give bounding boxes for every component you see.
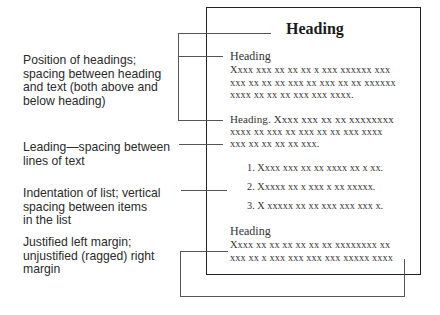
label-heading-position: Position of headings; spacing between he… [23,54,161,108]
leader-list [181,190,227,191]
leader-left-margin [180,251,228,252]
text-line: xxx xx xx xx xx xxx. [230,138,394,151]
bracket-vertical-margins [180,251,181,297]
label-leading: Leading—spacing between lines of text [23,141,170,168]
label-line: spacing between items [23,201,161,215]
leader-heading1 [178,56,223,57]
bracket-bottom [180,296,405,297]
leader-heading2 [178,120,223,121]
leader-right-margin [404,259,405,297]
text-line: xxx xx x xxx xxx xxx xxx xxxxx xxxx [230,252,393,265]
bracket-vertical-headings [178,33,179,121]
section-heading: Heading [230,224,271,239]
label-line: Position of headings; [23,54,161,68]
text-line: xxxx xx xx xx xxx xxx xxxx. [230,89,396,102]
text-line: Xxxx xxx xx xx xx x xxx xxxxxx xxx [230,64,396,77]
section-body: Xxxx xxx xx xx xx x xxx xxxxxx xxx xxx x… [230,64,396,102]
text-line: Xxxx xx xx xx xx xx xx xxxxxxxx xx [230,239,393,252]
label-line: lines of text [23,155,170,169]
text-line: Heading. Xxxx xxx xx xx xxxxxxxx [230,113,394,126]
label-line: margin [23,263,154,277]
text-line: xxx xx xx xx xxx xx xxx xx xx xxxxxx [230,77,396,90]
section-heading: Heading [230,49,271,64]
list-item: 3. X xxxxx xx xx xxx xxx xxx x. [247,200,383,211]
label-line: below heading) [23,95,161,109]
section-body: Xxxx xx xx xx xx xx xx xxxxxxxx xx xxx x… [230,239,393,264]
text-line: xxxx xx xxx xx xxx xx xx xxx xxxx [230,126,394,139]
run-in-heading-paragraph: Heading. Xxxx xxx xx xx xxxxxxxx xxxx xx… [230,113,394,151]
list-item: 1. Xxxx xxx xx xx xxxx xx x xx. [247,162,383,173]
label-line: unjustified (ragged) right [23,250,154,264]
list-item: 2. Xxxxx xx x xxx x xx xxxxx. [247,181,375,192]
leader-leading [179,144,223,145]
label-margins: Justified left margin; unjustified (ragg… [23,236,154,277]
label-line: Justified left margin; [23,236,154,250]
label-line: Leading—spacing between [23,141,170,155]
leader-title [178,33,271,34]
label-line: in the list [23,214,161,228]
page-title: Heading [286,20,344,38]
label-line: Indentation of list; vertical [23,187,161,201]
label-line: and text (both above and [23,81,161,95]
label-line: spacing between heading [23,68,161,82]
label-list-indentation: Indentation of list; vertical spacing be… [23,187,161,228]
